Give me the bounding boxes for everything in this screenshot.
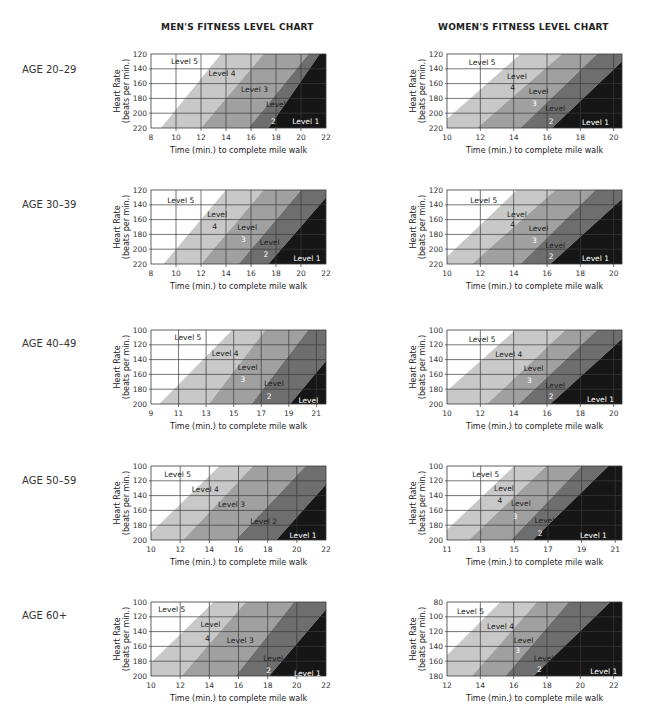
age-label-20-29: AGE 20–29 [22, 64, 76, 75]
fitness-chart-women-50-59: 111315171921100120140160180200Level 5Lev… [387, 458, 642, 577]
y-tick-label: 180 [133, 94, 148, 103]
y-tick-label: 180 [429, 521, 444, 530]
level-label: 4 [510, 83, 515, 92]
x-tick-label: 18 [263, 681, 273, 690]
x-tick-label: 16 [509, 681, 519, 690]
y-tick-label: 200 [429, 400, 444, 409]
y-axis-label: Heart Rate [409, 345, 418, 388]
x-tick-label: 22 [609, 681, 619, 690]
x-tick-label: 20 [292, 545, 302, 554]
y-tick-label: 120 [133, 50, 148, 59]
level-label: Level 1 [590, 667, 617, 676]
y-tick-label: 140 [429, 491, 444, 500]
y-tick-label: 160 [429, 370, 444, 379]
y-tick-label: 220 [133, 124, 148, 133]
y-tick-label: 80 [433, 598, 443, 607]
x-tick-label: 10 [171, 269, 181, 278]
x-axis-label: Time (min.) to complete mile walk [465, 694, 603, 703]
level-label: Level [238, 363, 258, 372]
fitness-chart-men-40-49: 9111315171921100120140160180200Level 5Le… [91, 322, 346, 441]
level-label: 3 [527, 376, 532, 385]
y-axis-label: Heart Rate [409, 205, 418, 248]
x-tick-label: 18 [576, 409, 586, 418]
women-chart-title: WOMEN'S FITNESS LEVEL CHART [438, 22, 609, 32]
x-axis-label: Time (min.) to complete mile walk [169, 422, 307, 431]
y-tick-label: 140 [429, 642, 444, 651]
level-label: Level 4 [495, 350, 522, 359]
x-tick-label: 17 [256, 409, 266, 418]
x-tick-label: 11 [174, 409, 184, 418]
y-tick-label: 140 [429, 200, 444, 209]
y-tick-label: 200 [133, 109, 148, 118]
y-tick-label: 140 [429, 355, 444, 364]
x-tick-label: 20 [292, 681, 302, 690]
y-tick-label: 180 [429, 385, 444, 394]
level-label: Level [545, 104, 565, 113]
x-tick-label: 18 [271, 269, 281, 278]
y-tick-label: 200 [429, 109, 444, 118]
level-label: 2 [264, 250, 269, 259]
x-tick-label: 22 [321, 545, 331, 554]
level-label: Level [524, 364, 544, 373]
x-axis-label: Time (min.) to complete mile walk [169, 694, 307, 703]
y-axis-label-units: (beats per min.) [122, 335, 131, 399]
x-tick-label: 21 [312, 409, 322, 418]
level-label: 2 [549, 117, 554, 126]
level-label: Level [511, 499, 531, 508]
y-tick-label: 180 [133, 385, 148, 394]
age-label-60plus: AGE 60+ [22, 610, 67, 621]
level-label: 3 [532, 99, 537, 108]
men-chart-title: MEN'S FITNESS LEVEL CHART [161, 22, 314, 32]
y-tick-label: 160 [133, 642, 148, 651]
x-tick-label: 18 [263, 545, 273, 554]
x-tick-label: 14 [509, 269, 519, 278]
level-label: Level 5 [472, 470, 499, 479]
level-label: Level [507, 72, 527, 81]
x-tick-label: 12 [196, 133, 206, 142]
x-tick-label: 16 [542, 269, 552, 278]
level-label: Level [514, 636, 534, 645]
y-axis-label: Heart Rate [409, 69, 418, 112]
level-label: Level [201, 620, 221, 629]
y-axis-label-units: (beats per min.) [418, 471, 427, 535]
x-tick-label: 12 [175, 681, 185, 690]
level-label: Level 5 [167, 196, 194, 205]
level-label: 3 [532, 236, 537, 245]
x-tick-label: 16 [234, 681, 244, 690]
y-tick-label: 140 [133, 64, 148, 73]
y-axis-label-units: (beats per min.) [122, 471, 131, 535]
level-label: Level [237, 223, 257, 232]
y-tick-label: 120 [429, 50, 444, 59]
y-tick-label: 160 [133, 79, 148, 88]
x-tick-label: 13 [476, 545, 486, 554]
y-axis-label: Heart Rate [113, 69, 122, 112]
level-label: 2 [266, 666, 271, 675]
x-tick-label: 9 [149, 409, 154, 418]
fitness-chart-men-20-29: 810121416182022120140160180200220Level 5… [91, 46, 346, 165]
x-tick-label: 16 [542, 133, 552, 142]
x-tick-label: 15 [229, 409, 239, 418]
level-label: Level 1 [587, 395, 614, 404]
x-tick-label: 13 [201, 409, 211, 418]
level-label: Level 1 [290, 531, 317, 540]
x-axis-label: Time (min.) to complete mile walk [169, 146, 307, 155]
level-label: Level [264, 379, 284, 388]
level-label: Level 2 [250, 517, 277, 526]
level-label: Level [507, 210, 527, 219]
x-tick-label: 14 [221, 133, 231, 142]
y-tick-label: 140 [133, 491, 148, 500]
y-tick-label: 180 [133, 657, 148, 666]
level-label: Level 3 [218, 500, 245, 509]
x-tick-label: 12 [476, 269, 486, 278]
y-tick-label: 160 [133, 506, 148, 515]
level-label: 2 [537, 665, 542, 674]
fitness-chart-men-50-59: 10121416182022100120140160180200Level 5L… [91, 458, 346, 577]
x-axis-label: Time (min.) to complete mile walk [169, 558, 307, 567]
y-tick-label: 120 [429, 186, 444, 195]
level-label: Level 3 [227, 636, 254, 645]
y-tick-label: 140 [429, 64, 444, 73]
x-tick-label: 18 [576, 133, 586, 142]
y-tick-label: 200 [133, 536, 148, 545]
age-label-30-39: AGE 30–39 [22, 199, 76, 210]
y-axis-label-units: (beats per min.) [122, 195, 131, 259]
